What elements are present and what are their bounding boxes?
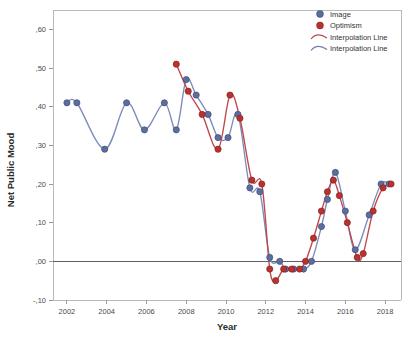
- data-point-marker: [102, 146, 108, 152]
- y-tick-label: ,00: [36, 257, 46, 266]
- data-point-marker: [141, 127, 147, 133]
- data-point-marker: [227, 92, 233, 98]
- x-tick-label: 2012: [257, 307, 274, 316]
- data-point-marker: [344, 220, 350, 226]
- y-tick-label: ,50: [36, 64, 46, 73]
- series-line-image: [67, 78, 389, 269]
- series-line-optimism: [176, 64, 391, 281]
- data-point-marker: [193, 92, 199, 98]
- y-tick-label: ,60: [36, 25, 46, 34]
- data-point-marker: [296, 266, 302, 272]
- y-tick-label: ,10: [36, 218, 46, 227]
- data-point-marker: [123, 100, 129, 106]
- legend-label: Optimism: [330, 21, 362, 30]
- data-point-marker: [388, 181, 394, 187]
- x-tick-label: 2018: [377, 307, 394, 316]
- chart-container: ,60,50,40,30,20,10,00-,10 20022004200620…: [0, 0, 418, 337]
- x-tick-label: 2010: [218, 307, 235, 316]
- data-point-marker: [310, 235, 316, 241]
- data-point-marker: [330, 177, 336, 183]
- x-tick-label: 2004: [98, 307, 115, 316]
- data-point-marker: [215, 135, 221, 141]
- legend-interpolation-curve: [311, 47, 327, 51]
- y-tick-label: ,20: [36, 180, 46, 189]
- data-point-marker: [185, 88, 191, 94]
- x-tick-label: 2008: [178, 307, 195, 316]
- x-axis: 200220042006200820102012201420162018: [59, 300, 394, 316]
- data-point-marker: [161, 100, 167, 106]
- data-point-marker: [74, 100, 80, 106]
- data-point-marker: [173, 61, 179, 67]
- data-point-marker: [215, 146, 221, 152]
- data-point-marker: [237, 115, 243, 121]
- y-axis: ,60,50,40,30,20,10,00-,10: [33, 25, 53, 305]
- data-point-marker: [302, 258, 308, 264]
- y-tick-label: -,10: [33, 296, 46, 305]
- data-point-marker: [318, 223, 324, 229]
- data-point-marker: [267, 254, 273, 260]
- series-markers-image: [64, 77, 392, 273]
- data-point-marker: [277, 258, 283, 264]
- y-tick-label: ,30: [36, 141, 46, 150]
- x-axis-title: Year: [217, 321, 237, 332]
- data-point-marker: [205, 111, 211, 117]
- series-markers-optimism: [173, 61, 394, 284]
- data-point-marker: [336, 193, 342, 199]
- data-point-marker: [308, 258, 314, 264]
- data-point-marker: [360, 251, 366, 257]
- legend-label: Interpolation Line: [330, 33, 388, 42]
- data-point-marker: [281, 266, 287, 272]
- data-point-marker: [273, 278, 279, 284]
- legend-marker-optimism: [317, 22, 324, 29]
- legend-interpolation-curve: [311, 35, 327, 39]
- x-tick-label: 2014: [297, 307, 314, 316]
- legend-marker-image: [317, 11, 324, 18]
- plot-frame: [53, 10, 401, 300]
- data-point-marker: [332, 169, 338, 175]
- data-point-marker: [380, 185, 386, 191]
- data-point-marker: [289, 266, 295, 272]
- y-axis-title: Net Public Mood: [5, 133, 16, 208]
- data-point-marker: [259, 181, 265, 187]
- data-point-marker: [318, 208, 324, 214]
- data-point-marker: [199, 111, 205, 117]
- data-point-marker: [64, 100, 70, 106]
- data-point-marker: [354, 254, 360, 260]
- data-point-marker: [173, 127, 179, 133]
- data-point-marker: [342, 208, 348, 214]
- legend-label: Interpolation Line: [330, 44, 388, 53]
- x-tick-label: 2002: [59, 307, 76, 316]
- legend-label: Image: [330, 10, 351, 19]
- y-tick-label: ,40: [36, 102, 46, 111]
- x-tick-label: 2006: [138, 307, 155, 316]
- data-point-marker: [225, 135, 231, 141]
- x-tick-label: 2016: [337, 307, 354, 316]
- data-point-marker: [183, 77, 189, 83]
- chart-legend: ImageOptimismInterpolation LineInterpola…: [311, 10, 388, 54]
- data-point-marker: [257, 189, 263, 195]
- data-point-marker: [324, 189, 330, 195]
- data-point-marker: [267, 266, 273, 272]
- data-point-marker: [249, 177, 255, 183]
- data-point-marker: [247, 185, 253, 191]
- data-point-marker: [352, 247, 358, 253]
- data-point-marker: [324, 196, 330, 202]
- data-point-marker: [370, 208, 376, 214]
- net-public-mood-line-chart: ,60,50,40,30,20,10,00-,10 20022004200620…: [0, 0, 418, 337]
